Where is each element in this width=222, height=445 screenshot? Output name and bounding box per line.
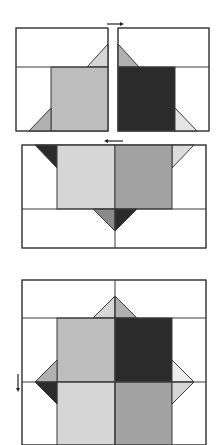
step-2-row	[22, 139, 206, 248]
quilt-assembly-diagram	[0, 0, 222, 445]
step-3-block	[16, 280, 206, 445]
arrow-left-icon	[104, 139, 123, 143]
right-unit	[118, 28, 209, 131]
left-unit	[16, 28, 108, 131]
arrow-right-icon	[107, 22, 124, 26]
arrow-down-icon	[16, 374, 20, 392]
step-1-units	[16, 22, 209, 131]
